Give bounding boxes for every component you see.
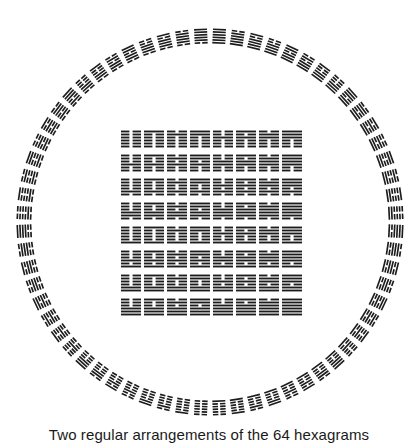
hexagram xyxy=(121,275,141,292)
hexagram xyxy=(175,30,190,47)
hexagram xyxy=(236,179,256,196)
hexagram xyxy=(360,308,380,327)
hexagram xyxy=(144,299,164,316)
hexagram xyxy=(259,131,279,148)
hexagram xyxy=(144,275,164,292)
hexagram xyxy=(264,388,281,406)
hexagram xyxy=(190,155,210,172)
hexagram xyxy=(236,131,256,148)
hexagram xyxy=(236,251,256,268)
hexagram xyxy=(213,227,233,244)
hexagram xyxy=(376,151,394,168)
hexagram xyxy=(236,275,256,292)
square-arrangement xyxy=(121,131,302,316)
hexagram xyxy=(194,400,208,416)
hexagram xyxy=(236,227,256,244)
hexagram xyxy=(18,242,35,257)
hexagram xyxy=(190,179,210,196)
hexagram xyxy=(259,203,279,220)
hexagram-figure xyxy=(0,0,418,420)
hexagram xyxy=(296,372,315,392)
hexagram xyxy=(280,381,298,400)
hexagram xyxy=(41,308,61,327)
figure-caption: Two regular arrangements of the 64 hexag… xyxy=(0,426,418,443)
hexagram xyxy=(259,155,279,172)
hexagram xyxy=(369,292,388,310)
hexagram xyxy=(26,276,44,293)
hexagram xyxy=(190,299,210,316)
hexagram xyxy=(259,179,279,196)
hexagram xyxy=(144,131,164,148)
hexagram xyxy=(157,33,173,51)
hexagram xyxy=(121,44,139,63)
hexagram xyxy=(51,102,71,121)
hexagram xyxy=(90,63,109,83)
hexagram xyxy=(247,33,263,51)
hexagram xyxy=(282,131,302,148)
hexagram xyxy=(121,227,141,244)
hexagram xyxy=(386,187,403,202)
hexagram xyxy=(21,259,39,275)
hexagram xyxy=(167,155,187,172)
hexagram xyxy=(190,203,210,220)
hexagram xyxy=(325,74,345,94)
hexagram xyxy=(167,275,187,292)
hexagram xyxy=(230,398,245,415)
hexagram xyxy=(105,53,124,73)
hexagram xyxy=(282,203,302,220)
hexagram xyxy=(75,350,95,370)
hexagram xyxy=(62,337,82,357)
hexagram xyxy=(144,155,164,172)
hexagram xyxy=(16,206,32,220)
hexagram xyxy=(212,28,226,44)
hexagram xyxy=(369,133,388,151)
hexagram xyxy=(282,251,302,268)
hexagram xyxy=(382,169,400,185)
hexagram xyxy=(282,299,302,316)
hexagram xyxy=(338,87,358,107)
hexagram xyxy=(311,63,330,83)
hexagram xyxy=(280,44,298,63)
hexagram xyxy=(190,251,210,268)
hexagram xyxy=(167,179,187,196)
hexagram xyxy=(32,292,51,310)
hexagram xyxy=(376,276,394,293)
hexagram xyxy=(296,53,315,73)
hexagram xyxy=(167,299,187,316)
hexagram xyxy=(230,30,245,47)
hexagram xyxy=(259,299,279,316)
hexagram xyxy=(121,381,139,400)
hexagram xyxy=(167,203,187,220)
hexagram xyxy=(144,179,164,196)
hexagram xyxy=(190,131,210,148)
hexagram xyxy=(18,187,35,202)
hexagram xyxy=(51,323,71,342)
hexagram xyxy=(139,38,156,56)
hexagram xyxy=(350,323,370,342)
hexagram xyxy=(175,398,190,415)
hexagram xyxy=(26,151,44,168)
hexagram xyxy=(236,299,256,316)
hexagram xyxy=(259,275,279,292)
hexagram xyxy=(194,28,208,44)
hexagram xyxy=(157,394,173,412)
hexagram xyxy=(338,337,358,357)
hexagram xyxy=(212,400,226,416)
hexagram xyxy=(213,131,233,148)
hexagram xyxy=(259,251,279,268)
hexagram xyxy=(144,251,164,268)
hexagram xyxy=(386,242,403,257)
hexagram xyxy=(264,38,281,56)
hexagram xyxy=(121,179,141,196)
hexagram xyxy=(282,179,302,196)
hexagram xyxy=(350,102,370,121)
hexagram xyxy=(236,155,256,172)
hexagram xyxy=(144,227,164,244)
hexagram xyxy=(121,155,141,172)
circular-arrangement xyxy=(16,28,403,415)
hexagram xyxy=(213,275,233,292)
hexagram xyxy=(167,131,187,148)
hexagram xyxy=(62,87,82,107)
hexagram xyxy=(213,179,233,196)
hexagram xyxy=(213,155,233,172)
